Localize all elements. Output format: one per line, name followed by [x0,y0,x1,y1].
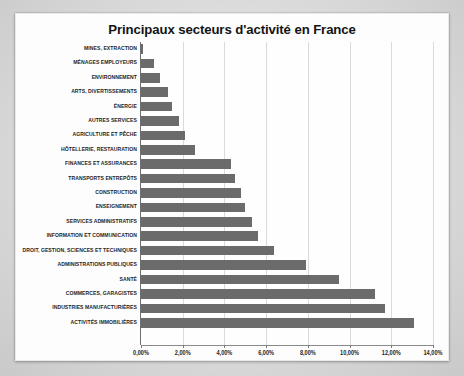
category-label: INFORMATION ET COMMUNICATION [47,228,137,244]
page-background: Principaux secteurs d'activité en France… [0,0,464,376]
bar-row: MINES, EXTRACTION [141,42,433,56]
bar-row: CONSTRUCTION [141,186,433,200]
x-tick-label: 4,00% [216,350,232,357]
gridline [433,42,434,345]
chart-title: Principaux secteurs d'activité en France [16,22,448,37]
bar [141,275,339,285]
bar-rows: MINES, EXTRACTIONMÉNAGES EMPLOYEURSENVIR… [141,42,433,345]
category-label: INDUSTRIES MANUFACTURIÈRES [52,300,137,316]
bar-row: INFORMATION ET COMMUNICATION [141,229,433,243]
bar [141,174,235,184]
bar-row: ÉNERGIE [141,100,433,114]
bar [141,260,306,270]
bar-row: ARTS, DIVERTISSEMENTS [141,85,433,99]
bar [141,145,195,155]
bar-row: TRANSPORTS ENTREPÔTS [141,172,433,186]
x-tick [183,345,184,348]
bar-row: ADMINISTRATIONS PUBLIQUES [141,258,433,272]
bar [141,231,258,241]
bar [141,304,385,314]
bar-row: ENSEIGNEMENT [141,200,433,214]
bar [141,44,143,54]
x-tick-label: 0,00% [133,350,149,357]
bar [141,59,154,69]
x-tick-label: 6,00% [258,350,274,357]
bar-row: SERVICES ADMINISTRATIFS [141,215,433,229]
bar [141,318,414,328]
bar [141,217,252,227]
bar-row: DROIT, GESTION, SCIENCES ET TECHNIQUES [141,244,433,258]
x-tick [141,345,142,348]
bar [141,159,231,169]
plot-area: MINES, EXTRACTIONMÉNAGES EMPLOYEURSENVIR… [140,42,433,345]
bar-row: SANTÉ [141,273,433,287]
bar-row: ACTIVITÉS IMMOBILIÈRES [141,316,433,330]
bar [141,116,179,126]
bar [141,289,375,299]
category-label: ADMINISTRATIONS PUBLIQUES [57,257,137,273]
bar-row: ENVIRONNEMENT [141,71,433,85]
bar [141,102,172,112]
x-tick-label: 8,00% [300,350,316,357]
x-tick [433,345,434,348]
bar-row: FINANCES ET ASSURANCES [141,157,433,171]
x-tick-label: 10,00% [340,350,359,357]
bar-row: AGRICULTURE ET PÊCHE [141,128,433,142]
x-axis: 0,00%2,00%4,00%6,00%8,00%10,00%12,00%14,… [141,345,433,365]
bar [141,73,160,83]
bar [141,203,245,213]
x-tick [391,345,392,348]
bar [141,131,185,141]
x-tick-label: 2,00% [175,350,191,357]
bar [141,246,274,256]
x-tick [224,345,225,348]
category-label: ARTS, DIVERTISSEMENTS [71,84,137,100]
x-tick [350,345,351,348]
category-label: FINANCES ET ASSURANCES [65,156,137,172]
bar-row: HÔTELLERIE, RESTAURATION [141,143,433,157]
category-label: ACTIVITÉS IMMOBILIÈRES [71,314,137,330]
bar-row: MÉNAGES EMPLOYEURS [141,56,433,70]
chart-frame: Principaux secteurs d'activité en France… [15,13,449,361]
bar-row: AUTRES SERVICES [141,114,433,128]
x-tick [266,345,267,348]
x-tick-label: 12,00% [382,350,401,357]
x-tick [308,345,309,348]
bar [141,188,241,198]
bar [141,87,168,97]
bar-row: INDUSTRIES MANUFACTURIÈRES [141,301,433,315]
bar-row: COMMERCES, GARAGISTES [141,287,433,301]
x-tick-label: 14,00% [424,350,443,357]
